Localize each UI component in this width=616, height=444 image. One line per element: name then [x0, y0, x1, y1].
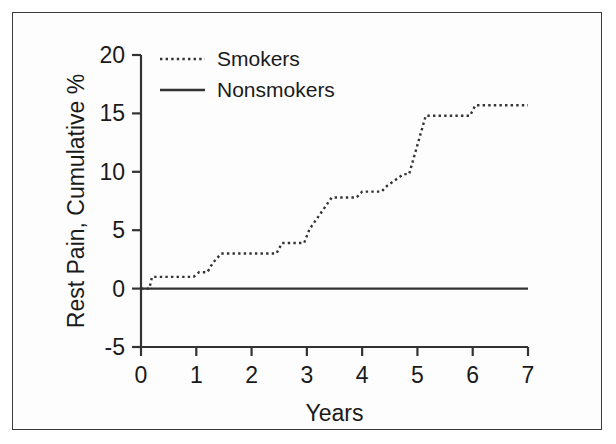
x-tick-label: 4 — [356, 362, 369, 388]
y-tick-label: 0 — [112, 276, 125, 302]
legend-label-smokers: Smokers — [217, 47, 300, 70]
x-tick-label: 1 — [190, 362, 203, 388]
x-axis-ticks — [141, 347, 528, 356]
series-line-smokers — [141, 105, 528, 288]
y-axis-title: Rest Pain, Cumulative % — [63, 74, 89, 328]
y-tick-label: 10 — [99, 159, 125, 185]
x-axis-title: Years — [306, 400, 364, 426]
figure-container: -505101520 01234567 Rest Pain, Cumulativ… — [0, 0, 616, 444]
chart-plot-area: -505101520 01234567 Rest Pain, Cumulativ… — [0, 0, 616, 444]
y-tick-label: 5 — [112, 217, 125, 243]
y-tick-label: -5 — [105, 334, 125, 360]
x-tick-label: 7 — [522, 362, 535, 388]
y-tick-label: 20 — [99, 42, 125, 68]
data-series-group — [141, 105, 528, 288]
legend-label-nonsmokers: Nonsmokers — [217, 78, 335, 101]
x-tick-label: 5 — [411, 362, 424, 388]
y-axis-ticks — [132, 55, 141, 347]
x-tick-label: 6 — [466, 362, 479, 388]
x-axis-tick-labels: 01234567 — [135, 362, 535, 388]
chart-legend: SmokersNonsmokers — [160, 47, 335, 101]
x-tick-label: 3 — [300, 362, 313, 388]
x-tick-label: 0 — [135, 362, 148, 388]
x-tick-label: 2 — [245, 362, 258, 388]
y-axis-tick-labels: -505101520 — [99, 42, 125, 360]
y-tick-label: 15 — [99, 100, 125, 126]
